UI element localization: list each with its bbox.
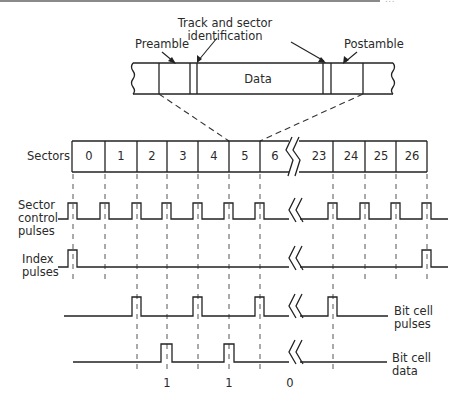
bit-value-1: 1 [152, 377, 182, 390]
sectors-row-label: Sectors [27, 150, 70, 163]
data-field-label: Data [240, 73, 276, 86]
sector-control-pulses-waveform [58, 198, 448, 222]
preamble-label: Preamble [135, 38, 189, 51]
bit-cell-data-label-2: data [392, 365, 418, 378]
sector-cell-4: 4 [199, 150, 229, 163]
sector-cell-26: 26 [397, 150, 427, 163]
disk-sector-timing-diagram [0, 0, 466, 403]
sector-cell-1: 1 [106, 150, 136, 163]
sector-cell-25: 25 [366, 150, 396, 163]
index-pulses-label-2: pulses [22, 266, 59, 279]
sector-cell-23: 23 [304, 150, 334, 163]
sector-cell-2: 2 [137, 150, 167, 163]
bit-cell-pulses-label-2: pulses [394, 318, 431, 331]
sector-cell-0: 0 [74, 150, 104, 163]
alignment-dashed-lines [73, 174, 427, 373]
zoom-leader-lines [159, 94, 363, 141]
sector-cell-24: 24 [336, 150, 366, 163]
bit-value-2: 1 [214, 377, 244, 390]
bit-value-3: 0 [275, 377, 305, 390]
bit-cell-data-waveform [73, 340, 387, 364]
postamble-label: Postamble [344, 38, 404, 51]
sector-cell-6: 6 [260, 150, 290, 163]
sector-cell-3: 3 [168, 150, 198, 163]
bit-cell-pulses-waveform [64, 294, 388, 318]
sector-cell-5: 5 [230, 150, 260, 163]
sector-control-label-3: pulses [18, 225, 55, 238]
index-pulses-waveform [58, 246, 448, 270]
